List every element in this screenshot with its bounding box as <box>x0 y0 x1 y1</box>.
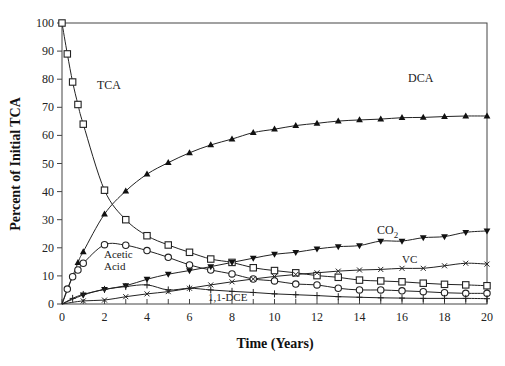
series-acetic-acid-marker <box>101 242 107 248</box>
series-1-1-dce-marker <box>420 295 426 302</box>
series-1-1-dce-marker <box>399 295 405 302</box>
y-tick-label: 50 <box>42 157 54 171</box>
series-tca-marker <box>399 279 405 285</box>
series-tca-marker <box>484 283 490 289</box>
series-acetic-acid-marker <box>75 267 81 273</box>
series-tca-marker <box>463 282 469 288</box>
series-dca-marker <box>399 114 406 120</box>
series-dca-marker <box>165 159 172 165</box>
y-tick-label: 40 <box>42 185 54 199</box>
series-acetic-acid-marker <box>80 260 86 266</box>
y-axis: 0102030405060708090100 <box>36 16 62 311</box>
series-1-1-dce-marker <box>335 293 341 300</box>
label-dce: 1,1-DCE <box>208 291 248 303</box>
series-dca-marker <box>420 114 427 120</box>
x-tick-label: 8 <box>229 310 235 324</box>
series-dca-marker <box>484 112 491 118</box>
series-tca-marker <box>75 101 81 107</box>
series-acetic-acid-marker <box>186 262 192 268</box>
x-tick-label: 20 <box>481 310 493 324</box>
series-dca-marker <box>441 113 448 119</box>
series-acetic-acid-marker <box>378 287 384 293</box>
y-tick-label: 10 <box>42 269 54 283</box>
series-acetic-acid-marker <box>335 285 341 291</box>
plot-frame <box>62 23 487 304</box>
series-1-1-dce-marker <box>144 281 150 288</box>
series-dca-marker <box>80 248 87 254</box>
x-tick-label: 6 <box>187 310 193 324</box>
x-tick-label: 18 <box>439 310 451 324</box>
label-tca: TCA <box>97 78 121 92</box>
label-co2: CO2 <box>377 223 398 240</box>
plot-border <box>62 23 487 304</box>
series-acetic-acid-marker <box>144 247 150 253</box>
series-tca-marker <box>441 281 447 287</box>
series-1-1-dce-marker <box>378 294 384 301</box>
y-tick-label: 0 <box>48 297 54 311</box>
series-tca-marker <box>186 249 192 255</box>
series-dca-marker <box>144 171 151 177</box>
y-tick-label: 80 <box>42 72 54 86</box>
series-1-1-dce-marker <box>272 290 278 297</box>
series-acetic-acid-marker <box>293 281 299 287</box>
series-tca-marker <box>356 277 362 283</box>
series-1-1-dce-marker <box>293 291 299 298</box>
label-acetic: Acetic <box>104 248 133 260</box>
y-axis-title: Percent of Initial TCA <box>8 96 23 231</box>
series-tca-marker <box>69 79 75 85</box>
series-acetic-acid-marker <box>356 287 362 293</box>
series-group <box>62 23 487 304</box>
series-acetic-acid-marker <box>229 271 235 277</box>
x-tick-label: 16 <box>396 310 408 324</box>
series-1-1-dce-marker <box>250 289 256 296</box>
series-1-1-dce-marker <box>314 292 320 299</box>
y-tick-label: 90 <box>42 44 54 58</box>
x-axis-title: Time (Years) <box>236 336 313 352</box>
series-tca-marker <box>378 278 384 284</box>
series-acetic-acid-marker <box>165 254 171 260</box>
x-tick-label: 0 <box>59 310 65 324</box>
series-tca-marker <box>123 217 129 223</box>
series-tca-marker <box>208 256 214 262</box>
series-tca-marker <box>59 20 65 26</box>
x-tick-label: 14 <box>354 310 366 324</box>
chart: 02468101214161820 0102030405060708090100… <box>0 0 505 366</box>
series-tca-marker <box>101 187 107 193</box>
series-dca-marker <box>462 112 469 118</box>
series-tca-marker <box>335 274 341 280</box>
series-tca-marker <box>165 242 171 248</box>
series-tca-marker <box>144 233 150 239</box>
x-tick-label: 2 <box>102 310 108 324</box>
label-acid: Acid <box>104 260 126 272</box>
series-tca-marker <box>250 265 256 271</box>
y-tick-label: 70 <box>42 100 54 114</box>
series-acetic-acid-marker <box>314 282 320 288</box>
label-dca: DCA <box>408 71 434 85</box>
series-tca-marker <box>64 51 70 57</box>
series-1-1-dce-marker <box>80 291 86 298</box>
series-tca-marker <box>420 280 426 286</box>
x-tick-label: 4 <box>144 310 150 324</box>
series-acetic-acid-marker <box>399 288 405 294</box>
x-axis: 02468101214161820 <box>59 299 493 324</box>
series-1-1-dce-marker <box>70 295 76 302</box>
series-tca-marker <box>271 267 277 273</box>
x-tick-label: 12 <box>311 310 323 324</box>
label-vc: VC <box>402 253 417 265</box>
y-tick-label: 20 <box>42 241 54 255</box>
series-acetic-acid-marker <box>64 286 70 292</box>
series-1-1-dce-marker <box>357 294 363 301</box>
series-tca-marker <box>80 121 86 127</box>
y-tick-label: 30 <box>42 213 54 227</box>
series-acetic-acid-marker <box>420 288 426 294</box>
x-tick-label: 10 <box>269 310 281 324</box>
y-tick-label: 60 <box>42 128 54 142</box>
series-1-1-dce-marker <box>442 295 448 302</box>
series-1-1-dce-marker <box>102 286 108 293</box>
series-acetic-acid-marker <box>69 274 75 280</box>
y-tick-label: 100 <box>36 16 54 30</box>
